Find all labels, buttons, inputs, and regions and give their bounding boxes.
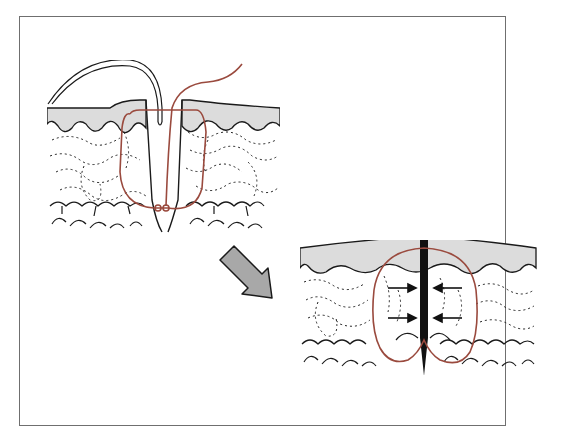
dermis-fibres — [304, 276, 534, 336]
incision-wall-right — [168, 100, 182, 232]
panel-after — [300, 236, 536, 376]
panel-before — [47, 60, 280, 232]
epidermis-layer — [300, 236, 536, 274]
dermis-fibres — [50, 132, 278, 201]
incision-wall-left — [146, 100, 162, 232]
epidermis-layer-left — [47, 100, 146, 133]
closed-incision — [420, 236, 428, 376]
direction-arrow-icon — [220, 246, 272, 298]
epidermis-layer-right — [182, 100, 280, 132]
